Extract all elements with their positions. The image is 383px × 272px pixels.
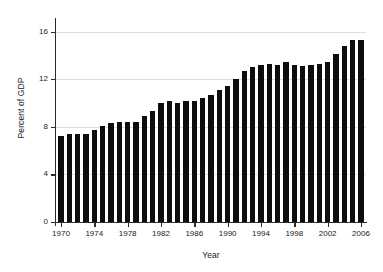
x-tick-mark [94,222,95,227]
y-tick-mark [51,222,56,223]
x-tick-mark [61,222,62,227]
y-tick-mark [51,79,56,80]
x-tick-mark [194,222,195,227]
y-tick-mark [51,127,56,128]
x-tick-label: 1970 [44,230,78,238]
y-tick-label: 12 [18,75,48,83]
x-tick-label: 1990 [211,230,245,238]
x-tick-mark [361,222,362,227]
bar-chart: Percent of GDP 0481216 19701974197819821… [0,0,383,272]
x-tick-label: 1998 [277,230,311,238]
x-tick-label: 1978 [111,230,145,238]
x-tick-mark [228,222,229,227]
y-tick-mark [51,32,56,33]
x-tick-mark [161,222,162,227]
y-tick-label: 16 [18,28,48,36]
y-tick-label: 8 [18,123,48,131]
x-tick-mark [261,222,262,227]
x-tick-label: 1974 [77,230,111,238]
x-tick-mark [128,222,129,227]
x-tick-mark [328,222,329,227]
y-tick-mark [51,174,56,175]
x-tick-label: 1994 [244,230,278,238]
x-tick-label: 2002 [311,230,345,238]
y-tick-label: 4 [18,170,48,178]
x-tick-label: 1986 [177,230,211,238]
x-tick-label: 1982 [144,230,178,238]
x-axis-title: Year [56,250,366,260]
x-tick-mark [294,222,295,227]
y-tick-label: 0 [18,218,48,226]
x-tick-label: 2006 [344,230,378,238]
